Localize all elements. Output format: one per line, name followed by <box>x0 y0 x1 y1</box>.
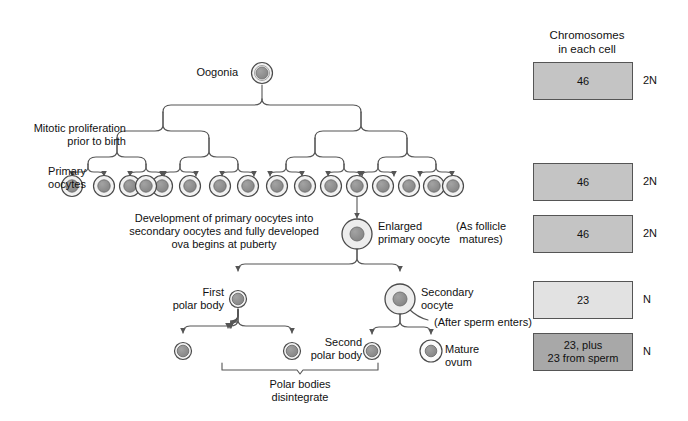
chromosomes-header-line2: in each cell <box>529 42 645 56</box>
label-polar-bodies-disintegrate: Polar bodies disintegrate <box>232 378 368 404</box>
chromosome-box-4: 23 <box>533 281 633 319</box>
label-secondary-oocyte: Secondary oocyte <box>421 286 501 312</box>
cell-polar-body-left <box>175 343 192 360</box>
oogenesis-diagram: Oogonia Mitotic proliferation prior to b… <box>0 0 688 421</box>
label-primary-oocytes: Primary oocytes <box>14 165 86 191</box>
ploidy-label-1: 2N <box>643 74 657 86</box>
cell-secondary-oocyte <box>385 284 415 314</box>
cell-primary-oocyte-row <box>62 176 464 197</box>
chromosome-box-3: 46 <box>533 215 633 253</box>
ploidy-label-4: N <box>643 293 651 305</box>
chromosome-box-1: 46 <box>533 62 633 100</box>
ploidy-label-3: 2N <box>643 227 657 239</box>
ploidy-label-2: 2N <box>643 175 657 187</box>
chromosomes-header-line1: Chromosomes <box>529 28 645 42</box>
chromosome-box-5: 23, plus 23 from sperm <box>533 333 633 371</box>
cell-first-polar-body <box>230 291 247 308</box>
label-development-at-puberty: Development of primary oocytes into seco… <box>110 212 338 251</box>
cell-mature-ovum <box>420 340 442 362</box>
cell-oogonia <box>252 63 273 84</box>
cell-enlarged-primary-oocyte <box>342 219 372 249</box>
label-mature-ovum: Mature ovum <box>445 343 507 369</box>
label-second-polar-body: Second polar body <box>296 336 362 362</box>
label-first-polar-body: First polar body <box>140 286 224 312</box>
cell-second-polar-body <box>364 343 381 360</box>
chromosome-box-2: 46 <box>533 163 633 201</box>
label-mitotic-proliferation: Mitotic proliferation prior to birth <box>14 122 126 148</box>
label-as-follicle-matures: (As follicle matures) <box>442 220 520 246</box>
label-oogonia: Oogonia <box>150 66 238 79</box>
ploidy-label-5: N <box>643 345 651 357</box>
